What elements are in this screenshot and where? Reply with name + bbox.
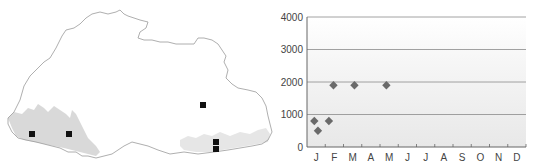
record-marker: [213, 146, 219, 152]
y-tick-label: 3000: [281, 44, 304, 55]
x-tick-label: M: [385, 152, 393, 163]
shaded-zone-east: [180, 128, 270, 152]
record-marker: [200, 102, 206, 108]
x-tick-label: O: [476, 152, 484, 163]
y-tick-label: 1000: [281, 109, 304, 120]
y-tick-labels: 01000200030004000: [281, 12, 304, 153]
y-tick-label: 4000: [281, 12, 304, 23]
x-tick-label: J: [314, 152, 319, 163]
record-marker: [29, 131, 35, 137]
chart-svg: 01000200030004000 JFMAMJJASOND: [270, 0, 536, 167]
distribution-map: [0, 0, 275, 167]
x-tick-label: S: [459, 152, 466, 163]
elevation-chart: 01000200030004000 JFMAMJJASOND: [270, 0, 536, 167]
x-tick-label: J: [405, 152, 410, 163]
x-tick-label: D: [513, 152, 520, 163]
x-tick-label: J: [423, 152, 428, 163]
x-tick-label: F: [331, 152, 337, 163]
record-marker: [213, 139, 219, 145]
map-svg: [0, 0, 275, 167]
x-tick-label: A: [441, 152, 448, 163]
y-tick-label: 0: [297, 142, 303, 153]
x-tick-label: M: [348, 152, 356, 163]
x-tick-label: A: [368, 152, 375, 163]
shaded-zone-west: [8, 104, 100, 156]
y-tick-label: 2000: [281, 77, 304, 88]
record-marker: [66, 131, 72, 137]
x-tick-label: N: [495, 152, 502, 163]
